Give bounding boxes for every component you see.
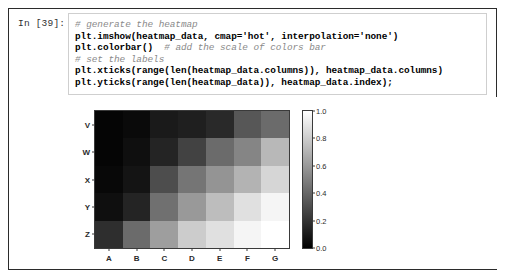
heatmap-cell [178,221,206,248]
figure-output: VWXYZABCDEFG 1.00.80.60.40.20.0 [9,97,498,269]
heatmap-cell [261,166,289,193]
code-editor[interactable]: # generate the heatmapplt.imshow(heatmap… [68,13,487,95]
heatmap-cell [95,138,123,165]
y-axis-tick-mark [92,206,95,207]
heatmap-cell [206,166,234,193]
heatmap-cell [234,111,262,138]
heatmap-cell [150,138,178,165]
code-comment: # add the scale of colors bar [153,42,326,53]
heatmap-cell [206,138,234,165]
colorbar-tick-mark [312,165,315,166]
heatmap-cell [261,193,289,220]
heatmap-cell [150,193,178,220]
y-axis-tick-label: Y [85,202,90,211]
heatmap-cell [95,193,123,220]
y-axis-tick-mark [92,124,95,125]
heatmap-cell [234,221,262,248]
heatmap-cell [123,221,151,248]
x-axis-tick-label: C [161,254,167,263]
heatmap-cell [150,166,178,193]
code-line: plt.xticks(range(len(heatmap_data.column… [75,65,482,77]
heatmap-cell [178,193,206,220]
notebook-cell: In [39]: # generate the heatmapplt.imsho… [8,8,497,270]
x-axis-tick-label: F [245,254,250,263]
y-axis-tick-mark [92,179,95,180]
x-axis-tick-mark [275,248,276,251]
code-line: plt.colorbar() # add the scale of colors… [75,42,482,54]
y-axis-tick-mark [92,152,95,153]
x-axis-tick-mark [164,248,165,251]
heatmap-cell [178,111,206,138]
colorbar-tick-label: 0.2 [316,216,326,225]
x-axis-tick-label: E [217,254,222,263]
heatmap-axes: VWXYZABCDEFG [94,110,290,249]
heatmap-cell [261,138,289,165]
colorbar-tick-label: 0.0 [316,244,326,253]
x-axis-tick-mark [136,248,137,251]
y-axis-tick-label: V [85,120,90,129]
colorbar-tick-mark [312,111,315,112]
heatmap-cell [234,193,262,220]
colorbar-tick-label: 0.4 [316,189,326,198]
heatmap-cell [206,111,234,138]
code-input-row: In [39]: # generate the heatmapplt.imsho… [9,9,496,97]
heatmap-cell [234,138,262,165]
heatmap-cell [123,193,151,220]
x-axis-tick-label: D [189,254,195,263]
heatmap-cell [95,111,123,138]
heatmap-cell [95,221,123,248]
input-prompt-label: In [39]: [18,18,65,29]
heatmap-cell [206,193,234,220]
heatmap-cell [150,111,178,138]
heatmap-cell [150,221,178,248]
x-axis-tick-mark [192,248,193,251]
x-axis-tick-mark [247,248,248,251]
y-axis-tick-label: W [82,148,90,157]
code-line: plt.yticks(range(len(heatmap_data)), hea… [75,77,482,89]
x-axis-tick-mark [219,248,220,251]
x-axis-tick-mark [108,248,109,251]
heatmap-cell [261,221,289,248]
colorbar-tick-label: 0.8 [316,134,326,143]
code-line: # generate the heatmap [75,19,482,31]
x-axis-tick-label: A [106,254,112,263]
y-axis-tick-mark [92,234,95,235]
x-axis-tick-label: B [134,254,140,263]
heatmap-cell [206,221,234,248]
y-axis-tick-label: Z [85,230,90,239]
heatmap-cell [123,111,151,138]
heatmap-cell [178,166,206,193]
code-line: # set the labels [75,54,482,66]
heatmap-cell [178,138,206,165]
heatmap-cell [123,138,151,165]
y-axis-tick-label: X [85,175,90,184]
colorbar-tick-mark [312,248,315,249]
code-line: plt.imshow(heatmap_data, cmap='hot', int… [75,31,482,43]
colorbar-tick-label: 1.0 [316,107,326,116]
heatmap-cell [123,166,151,193]
colorbar-tick-mark [312,193,315,194]
colorbar-tick-mark [312,220,315,221]
x-axis-tick-label: G [272,254,278,263]
colorbar-axes: 1.00.80.60.40.20.0 [302,110,313,249]
colorbar-tick-mark [312,138,315,139]
colorbar-tick-label: 0.6 [316,161,326,170]
heatmap-cell [261,111,289,138]
heatmap-cell [234,166,262,193]
heatmap-cell [95,166,123,193]
